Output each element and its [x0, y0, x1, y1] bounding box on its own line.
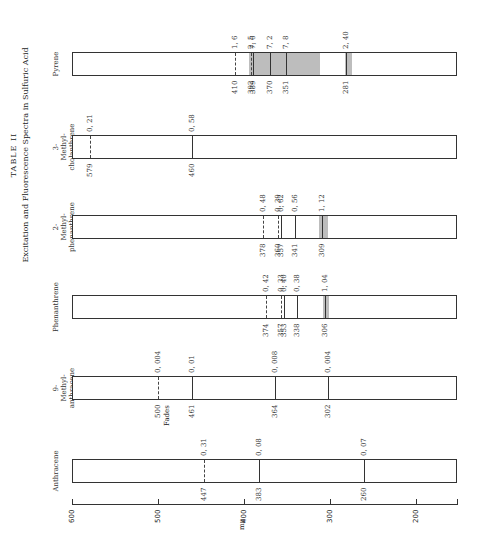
band-note: Fades [163, 405, 171, 426]
band-line [158, 377, 159, 399]
shaded-band [319, 216, 328, 238]
spectrum-bar [72, 376, 457, 400]
axis-tick-label: 600 [68, 510, 76, 523]
intensity-value: 1, 6 [231, 36, 239, 49]
axis-tick [158, 499, 159, 505]
band-line [284, 296, 285, 318]
compound-label: Anthracene [52, 441, 60, 501]
axis-tick [244, 499, 245, 505]
compound-label: Pyrene [52, 34, 60, 94]
title-line-2: Excitation and Fluorescence Spectra in S… [20, 25, 32, 285]
axis-tick-label: 300 [326, 510, 334, 523]
band-line [297, 296, 298, 318]
title-line-1: TABLE II [8, 25, 20, 285]
intensity-value: 1, 12 [318, 194, 326, 212]
band-line [259, 460, 260, 482]
table-title: TABLE II Excitation and Fluorescence Spe… [8, 25, 32, 285]
intensity-value: 0, 08 [255, 438, 263, 456]
intensity-value: 0, 004 [324, 351, 332, 373]
wavelength-value: 383 [255, 488, 263, 501]
band-line [266, 296, 267, 318]
wavelength-value: 378 [259, 244, 267, 257]
axis-tick-label: 500 [154, 510, 162, 523]
intensity-value: 1, 04 [321, 274, 329, 292]
intensity-value: 0, 62 [277, 194, 285, 212]
intensity-value: 0, 07 [360, 438, 368, 456]
band-line [192, 377, 193, 399]
wavelength-value: 389 [249, 81, 257, 94]
intensity-value: 2, 40 [342, 31, 350, 49]
spectrum-bar [72, 215, 457, 239]
band-line [286, 53, 287, 75]
axis-end-tick [457, 499, 458, 505]
intensity-value: 7, 6 [249, 36, 257, 49]
spectrum-bar [72, 52, 457, 76]
intensity-value: 0, 31 [200, 438, 208, 456]
wavelength-value: 357 [277, 244, 285, 257]
spectrum-bar [72, 295, 457, 319]
wavelength-value: 341 [291, 244, 299, 257]
band-line [281, 216, 282, 238]
wavelength-value: 281 [342, 81, 350, 94]
band-line [251, 53, 252, 75]
intensity-value: 7, 2 [266, 36, 274, 49]
band-line [270, 53, 271, 75]
intensity-value: 0, 008 [271, 351, 279, 373]
spectrum-bar [72, 135, 457, 159]
wavelength-value: 370 [266, 81, 274, 94]
intensity-value: 0, 56 [291, 194, 299, 212]
axis-tick [72, 499, 73, 505]
intensity-value: 0, 21 [86, 114, 94, 132]
intensity-value: 0, 004 [154, 351, 162, 373]
spectrum-bar [72, 459, 457, 483]
intensity-value: 7, 8 [282, 36, 290, 49]
band-line [281, 296, 282, 318]
shaded-band [249, 53, 320, 75]
band-line [204, 460, 205, 482]
band-line [364, 460, 365, 482]
wavelength-value: 460 [188, 164, 196, 177]
axis-tick [330, 499, 331, 505]
intensity-value: 0, 38 [293, 274, 301, 292]
band-line [275, 377, 276, 399]
band-line [192, 136, 193, 158]
band-line [325, 296, 326, 318]
wavelength-value: 338 [293, 324, 301, 337]
band-line [295, 216, 296, 238]
wavelength-value: 351 [282, 81, 290, 94]
intensity-value: 0, 40 [280, 274, 288, 292]
axis-unit-label: mμ [238, 519, 246, 530]
wavelength-value: 410 [231, 81, 239, 94]
band-line [322, 216, 323, 238]
wavelength-value: 500 [154, 405, 162, 418]
wavelength-value: 260 [360, 488, 368, 501]
wavelength-value: 353 [280, 324, 288, 337]
wavelength-value: 579 [86, 164, 94, 177]
wavelength-value: 364 [271, 405, 279, 418]
band-line [278, 216, 279, 238]
wavelength-value: 306 [321, 324, 329, 337]
wavelength-value: 374 [262, 324, 270, 337]
axis-tick-label: 200 [412, 510, 420, 523]
intensity-value: 0, 48 [259, 194, 267, 212]
band-line [328, 377, 329, 399]
wavelength-axis: 600500400300200 [72, 504, 457, 505]
wavelength-value: 302 [324, 405, 332, 418]
wavelength-value: 461 [188, 405, 196, 418]
axis-tick [416, 499, 417, 505]
band-line [235, 53, 236, 75]
wavelength-value: 447 [200, 488, 208, 501]
intensity-value: 0, 42 [262, 274, 270, 292]
band-line [90, 136, 91, 158]
intensity-value: 0, 58 [188, 114, 196, 132]
wavelength-value: 309 [318, 244, 326, 257]
compound-label: Phenanthrene [52, 277, 60, 337]
band-line [253, 53, 254, 75]
intensity-value: 0, 01 [188, 355, 196, 373]
band-line [263, 216, 264, 238]
band-line [346, 53, 347, 75]
